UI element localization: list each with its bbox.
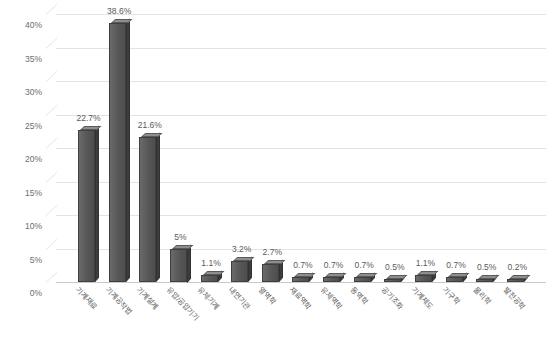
- bar-front-face: [507, 279, 524, 282]
- bar-front-face: [446, 277, 463, 282]
- bar[interactable]: [384, 279, 401, 282]
- bar[interactable]: [415, 275, 432, 282]
- x-axis-label: 동역학: [349, 284, 371, 306]
- bar-front-face: [201, 275, 218, 282]
- bar-front-face: [354, 277, 371, 282]
- x-axis-label: 내연기관: [227, 284, 254, 311]
- bar-front-face: [139, 137, 156, 282]
- bar[interactable]: [354, 277, 371, 282]
- bar-front-face: [323, 277, 340, 282]
- bar[interactable]: [231, 261, 248, 282]
- x-axis-label: 기계제도: [410, 284, 437, 311]
- bar-front-face: [231, 261, 248, 282]
- y-axis-tick-label: 40%: [0, 20, 42, 30]
- y-axis-tick-label: 25%: [0, 121, 42, 131]
- bar-series: 22.7%38.6%21.6%5%1.1%3.2%2.7%0.7%0.7%0.7…: [56, 14, 546, 282]
- bar-side-face: [156, 133, 160, 282]
- x-axis-category-labels: 기계재료기계공작법기계설계유압/공압기기유체기계내연기관열역학재료역학유체역학동…: [56, 284, 556, 343]
- bar[interactable]: [201, 275, 218, 282]
- bar-front-face: [109, 23, 126, 282]
- x-axis-label: 기계공작법: [104, 284, 135, 316]
- bar-front-face: [292, 277, 309, 282]
- x-axis-label: 유체기계: [196, 284, 223, 311]
- gridline: [56, 282, 546, 283]
- bar-value-label: 5%: [152, 232, 208, 242]
- x-axis-label: 기구학: [441, 284, 463, 306]
- bar[interactable]: [109, 23, 126, 282]
- x-axis-label: 재료역학: [288, 284, 315, 311]
- bar-front-face: [415, 275, 432, 282]
- bar-front-face: [476, 279, 493, 282]
- bar[interactable]: [476, 279, 493, 282]
- bar[interactable]: [78, 130, 95, 282]
- x-axis-label: 유체역학: [319, 284, 346, 311]
- y-axis-tick-label: 35%: [0, 54, 42, 64]
- y-axis-tick-label: 10%: [0, 221, 42, 231]
- bar-side-face: [126, 19, 130, 282]
- plot-area: 0%5%10%15%20%25%30%35%40% 22.7%38.6%21.6…: [46, 14, 546, 282]
- x-axis-label: 기계재료: [74, 284, 101, 311]
- bar-side-face: [95, 125, 99, 282]
- bar-value-label: 21.6%: [122, 120, 178, 130]
- bar[interactable]: [292, 277, 309, 282]
- x-axis-label: 발전공학: [502, 284, 529, 311]
- bar-value-label: 0.2%: [489, 262, 545, 272]
- y-axis-tick-label: 30%: [0, 87, 42, 97]
- y-axis-tick-label: 15%: [0, 188, 42, 198]
- x-axis-label: 공기조화: [380, 284, 407, 311]
- bar[interactable]: [446, 277, 463, 282]
- y-axis-tick-label: 5%: [0, 255, 42, 265]
- bar-front-face: [78, 130, 95, 282]
- bar-front-face: [384, 279, 401, 282]
- bar[interactable]: [323, 277, 340, 282]
- bar[interactable]: [507, 279, 524, 282]
- y-axis-tick-label: 0%: [0, 288, 42, 298]
- y-axis-tick-label: 20%: [0, 154, 42, 164]
- bar[interactable]: [139, 137, 156, 282]
- x-axis-label: 물리학: [472, 284, 494, 306]
- x-axis-label: 열역학: [257, 284, 279, 306]
- bar-value-label: 38.6%: [91, 6, 147, 16]
- x-axis-label: 기계설계: [135, 284, 162, 311]
- bar-chart: 0%5%10%15%20%25%30%35%40% 22.7%38.6%21.6…: [0, 0, 558, 343]
- bar-value-label: 2.7%: [244, 247, 300, 257]
